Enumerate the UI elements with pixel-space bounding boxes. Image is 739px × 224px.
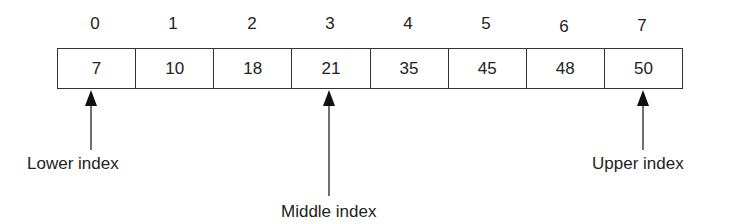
- upper-arrow-icon: [637, 90, 649, 150]
- middle-arrow-icon: [323, 90, 335, 196]
- middle-index-label: Middle index: [281, 202, 376, 222]
- lower-arrow-icon: [85, 90, 97, 150]
- pointer-arrows: [0, 0, 739, 224]
- upper-index-label: Upper index: [592, 154, 684, 174]
- lower-index-label: Lower index: [27, 154, 119, 174]
